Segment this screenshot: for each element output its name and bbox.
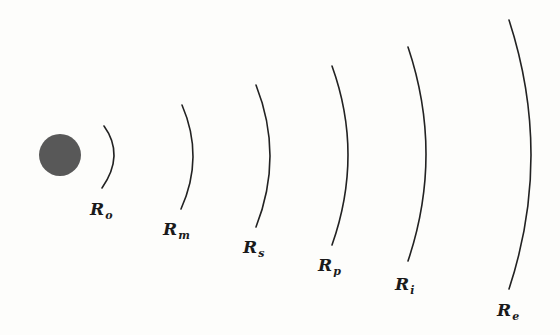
arc-r-s [256,85,270,227]
radii-diagram [0,0,560,335]
label-r-m: Rm [163,221,190,238]
label-r-o: Ro [90,201,112,218]
arc-r-i [408,47,426,261]
central-source-disc [39,134,81,176]
arc-r-m [181,105,193,209]
label-r-e: Re [497,302,519,319]
arc-group [102,20,531,289]
arc-r-p [332,66,348,245]
label-r-i: Ri [395,276,414,293]
arc-r-o [102,126,114,188]
label-r-p: Rp [318,257,341,274]
arc-r-e [509,20,531,289]
label-r-s: Rs [243,239,264,256]
